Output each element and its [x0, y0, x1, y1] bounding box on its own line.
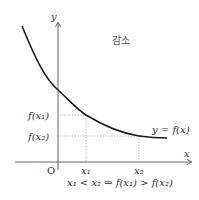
decreasing-function-diagram: y x O 감소 f(x₁) f(x₂) x₁ x₂ y = f(x) x₁ <…: [0, 0, 199, 200]
title-label: 감소: [112, 35, 130, 46]
x1-label: x₁: [81, 165, 91, 176]
caption: x₁ < x₂ ⇒ f(x₁) > f(x₂): [67, 177, 173, 188]
function-curve: [22, 26, 167, 138]
x-axis-label: x: [184, 148, 190, 159]
curve-label: y = f(x): [151, 124, 190, 135]
x2-label: x₂: [134, 165, 144, 176]
y-axis-label: y: [50, 11, 57, 22]
fx1-label: f(x₁): [27, 110, 49, 121]
origin-label: O: [47, 165, 55, 176]
fx2-label: f(x₂): [27, 131, 49, 142]
